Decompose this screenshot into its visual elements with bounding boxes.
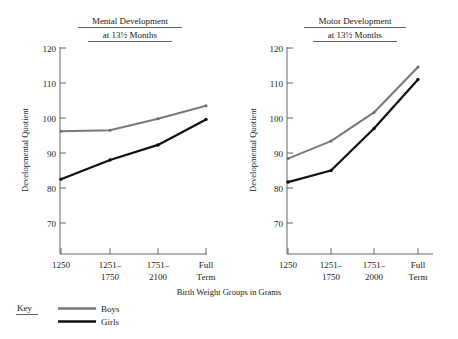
chart1-xlabel-2-line1: 1751– [147,260,170,270]
chart2-title: Motor Development [318,16,392,26]
chart1-series-boys-line [61,106,206,132]
chart2-xlabel-0-line1: 1250 [279,260,298,270]
chart2-y-axis-title: Developmental Quotient [248,107,258,191]
dual-line-chart-figure: Mental Development at 13½ Months 120 110 [0,0,458,339]
data-point [157,117,160,120]
chart2-ylabel-100: 100 [270,114,284,124]
chart2-xlabel-2-line2: 2000 [365,272,384,282]
data-point [60,130,63,133]
legend: Key Boys Girls [16,303,120,327]
chart1-ylabel-100: 100 [43,114,57,124]
chart2-x-ticks [288,248,418,254]
chart1-xlabel-1-line1: 1251– [99,260,122,270]
data-point [204,118,207,121]
data-point [373,111,376,114]
chart2-xlabel-3-line2: Term [409,272,428,282]
chart2-series-girls-points [286,78,419,184]
chart1-xlabel-2-line2: 2100 [149,272,168,282]
chart2-y-ticks [287,48,293,223]
legend-key-label: Key [17,303,32,313]
chart2-ylabel-120: 120 [270,44,284,54]
chart2-xlabel-2-line1: 1751– [363,260,386,270]
data-point [286,180,289,183]
chart1-ylabel-90: 90 [47,149,57,159]
chart2-xlabel-1-line2: 1750 [322,272,341,282]
chart1-xlabel-3-line2: Term [197,272,216,282]
legend-label-girls: Girls [101,317,119,327]
data-point [205,104,208,107]
chart2-y-tick-labels: 120 110 100 90 80 70 [270,44,284,229]
chart2-ylabel-80: 80 [274,184,284,194]
data-point [416,78,419,81]
data-point [287,157,290,160]
data-point [372,127,375,130]
chart-motor-development: Motor Development at 13½ Months 120 110 … [248,16,433,282]
chart2-xlabel-1-line1: 1251– [320,260,343,270]
chart2-series-boys-points [287,65,420,160]
data-point [417,65,420,68]
chart1-subtitle: at 13½ Months [103,30,158,40]
chart1-title: Mental Development [92,16,169,26]
data-point [59,178,62,181]
chart1-ylabel-70: 70 [47,219,57,229]
chart1-ylabel-80: 80 [47,184,57,194]
data-point [330,140,333,143]
chart-mental-development: Mental Development at 13½ Months 120 110 [20,16,215,282]
chart1-series-boys-points [60,104,208,133]
chart2-series-boys-line [288,67,418,159]
data-point [108,158,111,161]
chart1-xlabel-0-line1: 1250 [52,260,71,270]
data-point [329,169,332,172]
chart1-series-girls-line [61,119,206,179]
chart1-xlabel-3-line1: Full [199,260,214,270]
chart2-ylabel-90: 90 [274,149,284,159]
chart1-ylabel-110: 110 [43,79,57,89]
chart1-y-axis-title: Developmental Quotient [20,107,30,191]
chart2-ylabel-70: 70 [274,219,284,229]
data-point [109,129,112,132]
chart2-series-girls-line [288,80,418,183]
x-axis-title: Birth Weight Groups in Grams [177,287,281,297]
chart1-y-ticks [60,48,66,223]
chart2-xlabel-3-line1: Full [411,260,426,270]
chart1-y-tick-labels: 120 110 100 90 80 70 [43,44,57,229]
chart2-x-tick-labels: 1250 1251– 1750 1751– 2000 Full Term [279,260,427,282]
chart1-ylabel-120: 120 [43,44,57,54]
figure-container: Mental Development at 13½ Months 120 110 [0,0,458,339]
chart1-x-tick-labels: 1250 1251– 1750 1751– 2100 Full Term [52,260,215,282]
chart1-x-ticks [61,248,206,254]
chart1-xlabel-1-line2: 1750 [101,272,120,282]
chart2-subtitle: at 13½ Months [328,30,383,40]
legend-label-boys: Boys [101,304,120,314]
data-point [156,143,159,146]
chart2-ylabel-110: 110 [270,79,284,89]
